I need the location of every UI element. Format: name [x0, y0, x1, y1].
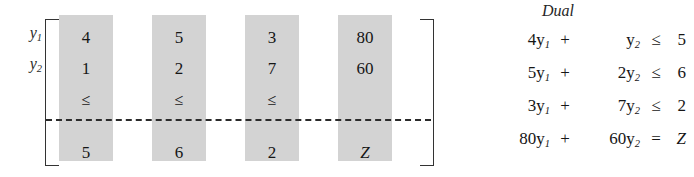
- matrix-cell-r1c2: 5: [152, 29, 206, 46]
- matrix-column-4: 80 60 Z: [338, 15, 392, 161]
- dual-eq-3-operator: +: [558, 96, 572, 116]
- matrix-column-3: 3 7 ≤ 2: [245, 15, 299, 161]
- matrix-cell-r1c4: 80: [338, 29, 392, 46]
- dual-eq-2-term-b-base: 2y: [618, 63, 635, 82]
- dual-eq-2-term-a: 5y1: [528, 63, 550, 83]
- matrix-cell-r2c3: 7: [245, 60, 299, 77]
- matrix-cell-r2c4: 60: [338, 60, 392, 77]
- dual-equation-2: 5y1 + 2y2 ≤ 6: [440, 63, 688, 93]
- dual-tableau-matrix: y1 y2 4 1 ≤ 5 5 2 ≤ 6 3 7 ≤ 2 80 60 Z: [0, 0, 440, 177]
- dual-eq-3-term-b-subscript: 2: [635, 105, 640, 116]
- dual-eq-4-relation: =: [648, 129, 664, 149]
- dual-eq-1-rhs: 5: [670, 30, 686, 50]
- matrix-cell-r3c2-relation: ≤: [152, 92, 206, 108]
- dual-eq-1-relation: ≤: [648, 30, 664, 50]
- dual-eq-3-relation: ≤: [648, 96, 664, 116]
- dual-eq-3-rhs: 2: [670, 96, 686, 116]
- matrix-cell-r4c2: 6: [152, 144, 206, 161]
- dual-eq-1-term-b: y2: [626, 30, 640, 50]
- dual-eq-2-term-a-subscript: 1: [545, 72, 550, 83]
- matrix-cell-r1c1: 4: [59, 29, 113, 46]
- row-label-y1: y1: [14, 24, 42, 43]
- dual-eq-2-term-a-base: 5y: [528, 63, 545, 82]
- dual-eq-3-term-a: 3y1: [528, 96, 550, 116]
- row-label-y1-subscript: 1: [37, 32, 42, 43]
- matrix-column-1: 4 1 ≤ 5: [59, 15, 113, 161]
- dual-eq-3-term-b-base: 7y: [618, 96, 635, 115]
- matrix-cell-r3c3-relation: ≤: [245, 92, 299, 108]
- matrix-cell-r1c3: 3: [245, 29, 299, 46]
- dual-equation-4-objective: 80y1 + 60y2 = Z: [440, 129, 688, 159]
- dual-eq-2-rhs: 6: [670, 63, 686, 83]
- dual-eq-4-term-b-base: 60y: [609, 129, 635, 148]
- dual-eq-1-operator: +: [558, 30, 572, 50]
- dual-eq-4-term-b-subscript: 2: [635, 138, 640, 149]
- dual-eq-3-term-b: 7y2: [618, 96, 640, 116]
- matrix-cell-r3c1-relation: ≤: [59, 92, 113, 108]
- dual-eq-4-term-a: 80y1: [519, 129, 550, 149]
- dual-eq-4-term-b: 60y2: [609, 129, 640, 149]
- dual-eq-1-term-b-subscript: 2: [635, 39, 640, 50]
- dual-eq-4-term-a-base: 80y: [519, 129, 545, 148]
- dual-eq-4-term-a-subscript: 1: [545, 138, 550, 149]
- dual-eq-2-term-b-subscript: 2: [635, 72, 640, 83]
- dual-eq-1-term-b-base: y: [626, 30, 635, 49]
- matrix-cell-r2c1: 1: [59, 60, 113, 77]
- matrix-cell-r2c2: 2: [152, 60, 206, 77]
- dual-eq-2-relation: ≤: [648, 63, 664, 83]
- matrix-bracket-right: [420, 19, 434, 166]
- dashed-separator-line: [46, 119, 431, 121]
- dual-eq-1-term-a-base: 4y: [528, 30, 545, 49]
- dual-eq-2-term-b: 2y2: [618, 63, 640, 83]
- dual-equation-3: 3y1 + 7y2 ≤ 2: [440, 96, 688, 126]
- dual-eq-4-operator: +: [558, 129, 572, 149]
- row-label-y1-base: y: [30, 24, 37, 41]
- row-label-y2-base: y: [30, 55, 37, 72]
- matrix-bracket-left: [45, 19, 59, 166]
- matrix-cell-r4c1: 5: [59, 144, 113, 161]
- dual-eq-1-term-a-subscript: 1: [545, 39, 550, 50]
- matrix-cell-r4c4-objective: Z: [338, 144, 392, 161]
- dual-formulation-panel: Dual 4y1 + y2 ≤ 5 5y1 + 2y2 ≤ 6 3y1 + 7y…: [440, 0, 694, 177]
- dual-equation-1: 4y1 + y2 ≤ 5: [440, 30, 688, 60]
- matrix-cell-r4c3: 2: [245, 144, 299, 161]
- matrix-column-2: 5 2 ≤ 6: [152, 15, 206, 161]
- row-label-y2-subscript: 2: [37, 63, 42, 74]
- dual-eq-4-rhs: Z: [670, 129, 686, 149]
- dual-heading: Dual: [440, 2, 676, 20]
- dual-eq-3-term-a-subscript: 1: [545, 105, 550, 116]
- dual-eq-3-term-a-base: 3y: [528, 96, 545, 115]
- dual-eq-2-operator: +: [558, 63, 572, 83]
- dual-eq-1-term-a: 4y1: [528, 30, 550, 50]
- row-label-y2: y2: [14, 55, 42, 74]
